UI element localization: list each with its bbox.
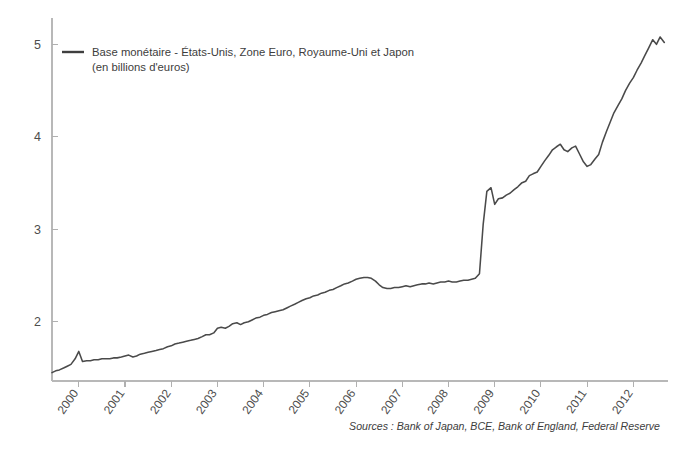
x-axis-label: 2000 [54, 386, 81, 416]
y-axis-label: 4 [34, 130, 41, 144]
x-axis-label: 2006 [332, 386, 359, 416]
x-axis-label: 2012 [609, 386, 636, 416]
x-axis-label: 2002 [147, 386, 174, 416]
x-axis-label: 2004 [239, 386, 266, 416]
y-axis-label: 3 [34, 223, 41, 237]
legend-label-line2: (en billions d'euros) [92, 61, 190, 73]
legend-label-line1: Base monétaire - États-Unis, Zone Euro, … [92, 46, 414, 58]
x-axis-label: 2005 [286, 386, 313, 416]
x-axis-label: 2008 [424, 386, 451, 416]
chart-figure: 2345200020012002200320042005200620072008… [0, 0, 680, 459]
x-axis-label: 2010 [517, 386, 544, 416]
x-axis-label: 2009 [470, 386, 497, 416]
x-axis-label: 2007 [378, 386, 405, 416]
data-series-line [52, 37, 664, 373]
source-note: Sources : Bank of Japan, BCE, Bank of En… [349, 420, 660, 432]
monetary-base-line-chart: 2345200020012002200320042005200620072008… [0, 0, 680, 459]
x-axis-label: 2011 [563, 386, 589, 415]
x-axis-label: 2003 [193, 386, 220, 416]
x-axis-label: 2001 [101, 386, 128, 416]
y-axis-label: 2 [34, 315, 41, 329]
y-axis-label: 5 [34, 38, 41, 52]
